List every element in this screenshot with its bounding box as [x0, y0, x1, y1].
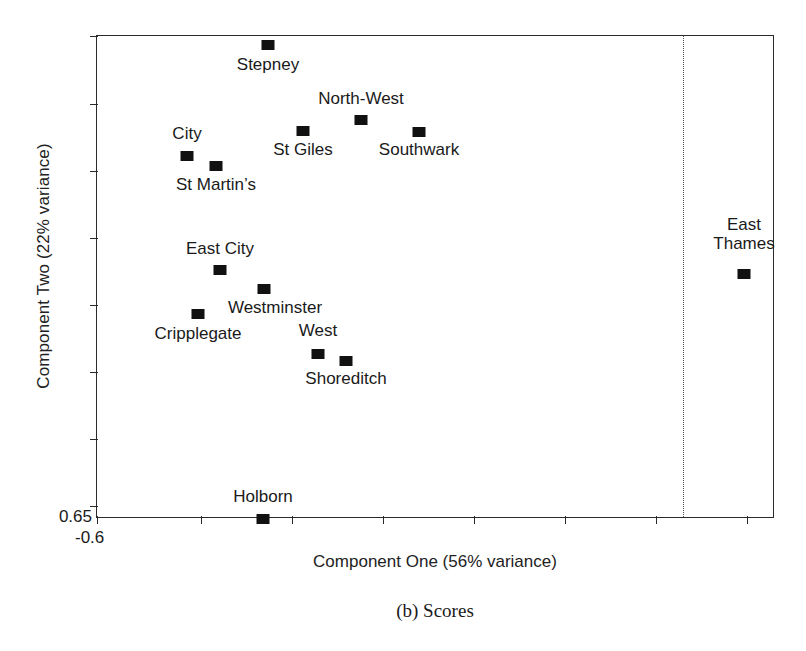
data-point-marker: [262, 40, 275, 50]
y-axis-tick: [90, 305, 98, 306]
x-axis-tick: [292, 516, 293, 524]
y-axis-tick: [90, 506, 98, 507]
x-axis-tick: [201, 516, 202, 524]
data-point-label: St Giles: [273, 140, 333, 159]
x-axis-tick: [97, 516, 98, 524]
data-point-marker: [258, 284, 271, 294]
plot-area: StepneyNorth-WestSt GilesSouthwarkCitySt…: [96, 35, 774, 518]
data-point-marker: [738, 269, 751, 279]
data-point-label: Cripplegate: [155, 324, 242, 343]
data-point-label: Holborn: [233, 487, 293, 506]
data-point-label: St Martin’s: [176, 175, 256, 194]
data-point-label: Shoreditch: [305, 369, 386, 388]
scores-scatter-figure: Component Two (22% variance) 0.65 Stepne…: [0, 0, 806, 651]
data-point-marker: [214, 265, 227, 275]
data-point-marker: [257, 514, 270, 524]
data-point-label: City: [172, 124, 201, 143]
x-axis-tick: [383, 516, 384, 524]
data-point-marker: [312, 349, 325, 359]
data-point-label: West: [299, 321, 337, 340]
y-axis-tick: [90, 171, 98, 172]
x-axis-label: Component One (56% variance): [96, 552, 774, 572]
data-point-label: Southwark: [379, 140, 459, 159]
data-point-label: Westminster: [228, 298, 322, 317]
y-axis-tick: [90, 439, 98, 440]
data-point-marker: [181, 151, 194, 161]
data-point-marker: [355, 115, 368, 125]
data-point-marker: [413, 127, 426, 137]
y-axis-tick-label: 0.65: [59, 507, 92, 527]
data-point-label: North-West: [318, 89, 404, 108]
y-axis-tick: [90, 36, 98, 37]
data-point-marker: [192, 309, 205, 319]
y-axis-tick: [90, 372, 98, 373]
data-point-marker: [210, 161, 223, 171]
data-point-label: East City: [186, 239, 254, 258]
figure-caption: (b) Scores: [96, 600, 774, 622]
x-axis-tick: [656, 516, 657, 524]
data-point-label: East Thames: [713, 215, 774, 253]
y-axis-tick: [90, 104, 98, 105]
data-point-label: Stepney: [237, 55, 299, 74]
x-axis-tick: [474, 516, 475, 524]
y-axis-tick: [90, 238, 98, 239]
vertical-dotted-line: [683, 36, 684, 517]
y-axis-label: Component Two (22% variance): [34, 56, 54, 476]
x-axis-tick: [565, 516, 566, 524]
x-axis-tick-label: -0.6: [75, 528, 104, 548]
data-point-marker: [297, 126, 310, 136]
x-axis-tick: [747, 516, 748, 524]
data-point-marker: [340, 356, 353, 366]
